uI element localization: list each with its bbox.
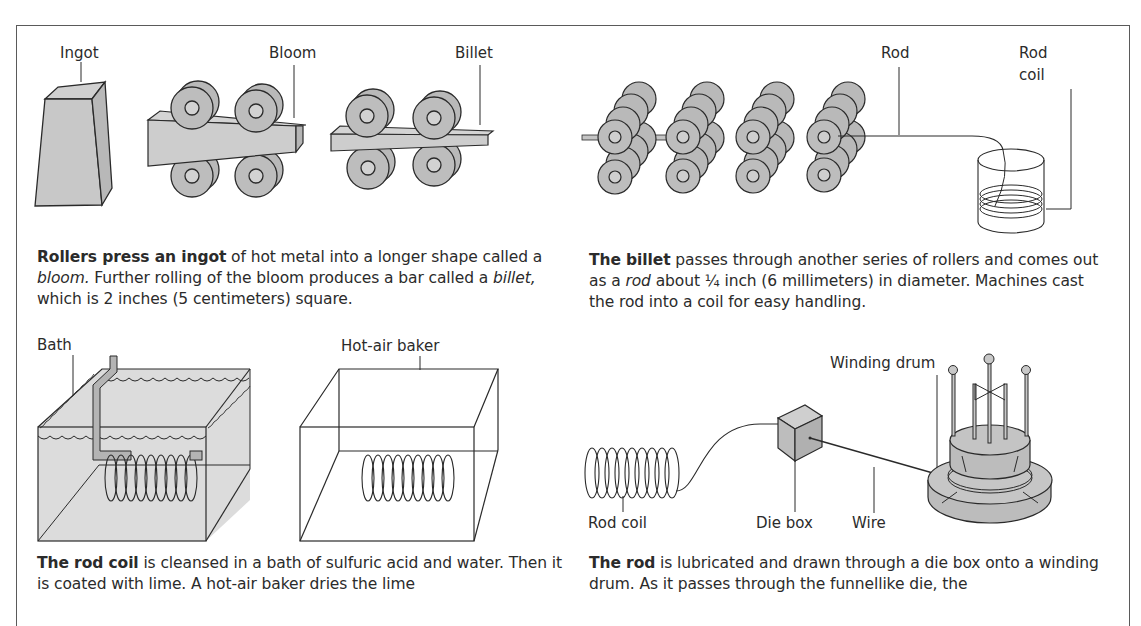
label-winding-drum: Winding drum: [830, 355, 935, 372]
winding-drum-drawing: [928, 354, 1052, 523]
caption-lead: The billet: [589, 251, 670, 269]
caption-term: billet,: [493, 269, 536, 287]
caption-text: about ¼ inch (6 millimeters) in diameter…: [589, 272, 1084, 311]
caption-term: rod: [625, 272, 650, 290]
bath-drawing: [38, 355, 250, 541]
rod-coil-container-drawing: [978, 89, 1071, 233]
label-drawing-rod-coil: Rod coil: [588, 515, 647, 532]
caption-text: Further rolling of the bloom produces a …: [90, 269, 493, 287]
caption-cleaning: The rod coil is cleansed in a bath of su…: [37, 553, 567, 595]
caption-text: of hot metal into a longer shape called …: [226, 248, 542, 266]
label-rod: Rod: [881, 45, 909, 62]
caption-lead: The rod coil: [37, 554, 139, 572]
label-billet: Billet: [455, 45, 493, 62]
hot-air-baker-drawing: [300, 356, 498, 541]
caption-rod: The billet passes through another series…: [589, 250, 1109, 313]
ingot-drawing: [35, 62, 112, 206]
drawing-rod-coil: [585, 424, 778, 512]
label-bloom: Bloom: [269, 45, 316, 62]
label-die-box: Die box: [756, 515, 813, 532]
caption-drawing: The rod is lubricated and drawn through …: [589, 553, 1099, 595]
caption-lead: The rod: [589, 554, 655, 572]
caption-lead: Rollers press an ingot: [37, 248, 226, 266]
caption-text: is lubricated and drawn through a die bo…: [589, 554, 1099, 593]
label-rod-coil-line1: Rod: [1019, 45, 1047, 62]
label-rod-coil-line2: coil: [1019, 67, 1045, 84]
rod-rollers-drawing: [582, 67, 1003, 194]
caption-rolling: Rollers press an ingot of hot metal into…: [37, 247, 557, 310]
bloom-rollers-drawing: [148, 65, 306, 197]
caption-text: which is 2 inches (5 centimeters) square…: [37, 290, 353, 308]
label-ingot: Ingot: [60, 45, 99, 62]
label-bath: Bath: [37, 337, 72, 354]
caption-term: bloom.: [37, 269, 90, 287]
label-hot-air-baker: Hot-air baker: [341, 338, 439, 355]
billet-rollers-drawing: [331, 65, 493, 189]
label-wire: Wire: [852, 515, 886, 532]
